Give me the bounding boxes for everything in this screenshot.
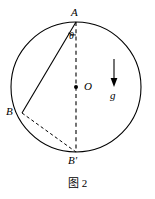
circle-diagram xyxy=(0,0,155,199)
label-gravity-g: g xyxy=(110,90,116,101)
label-point-b: B xyxy=(6,106,13,117)
figure-container: A θ O g B B' 图 2 xyxy=(0,0,155,199)
label-center-o: O xyxy=(84,81,92,92)
center-point-dot xyxy=(74,85,78,89)
label-point-a: A xyxy=(71,7,78,18)
figure-caption: 图 2 xyxy=(0,178,155,189)
label-point-b-prime: B' xyxy=(68,155,77,166)
label-angle-theta: θ xyxy=(69,31,74,41)
